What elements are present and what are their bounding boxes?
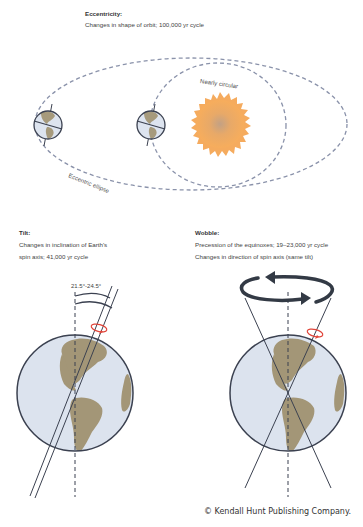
eccentric-ellipse-label: Eccentric ellipse: [68, 172, 111, 194]
sun-icon: [191, 92, 251, 157]
nearly-circular-label: Nearly circular: [200, 78, 239, 89]
eccentric-ellipse-orbit: [35, 58, 347, 190]
copyright-credit: © Kendall Hunt Publishing Company.: [204, 507, 351, 516]
precession-rotation-arrow-icon: [241, 271, 332, 305]
earth-circular-orbit-icon: [137, 104, 165, 146]
tilt-angle-label: 21.5°-24.5°: [71, 283, 102, 289]
spin-direction-icon: [90, 323, 107, 334]
milankovitch-diagram: Nearly circular Eccentric ellipse 21.5°-…: [0, 0, 363, 527]
earth-eccentric-orbit-icon: [34, 104, 62, 146]
